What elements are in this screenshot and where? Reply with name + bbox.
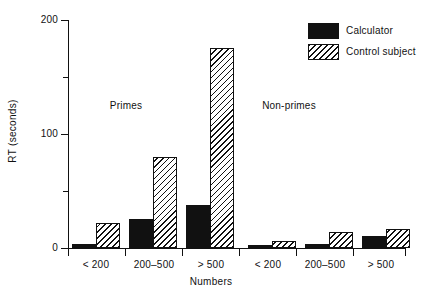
bar-calculator-nonprimes-gt500	[362, 236, 386, 248]
bar-control-primes-gt500	[210, 48, 234, 248]
legend-item-calculator: Calculator	[308, 20, 416, 41]
x-tick-6	[405, 249, 406, 256]
y-axis-title: RT (seconds)	[8, 81, 18, 181]
legend: Calculator Control subject	[308, 20, 416, 62]
x-label-nonprimes-gt500: > 500	[368, 259, 394, 270]
x-tick-5	[353, 249, 354, 256]
y-tick-label-200: 200	[41, 15, 58, 25]
bar-calculator-primes-lt200	[72, 244, 96, 248]
x-tick-1	[125, 249, 126, 256]
x-label-primes-gt500: > 500	[198, 259, 224, 270]
y-tick-label-100: 100	[41, 129, 58, 139]
bar-calculator-nonprimes-200-500	[305, 244, 329, 248]
bar-control-nonprimes-gt500	[386, 229, 410, 248]
legend-item-control-subject: Control subject	[308, 41, 416, 62]
bar-chart-figure: RT (seconds) 200 100 0 < 200 200–5	[0, 0, 422, 296]
x-tick-4	[296, 249, 297, 256]
bar-control-primes-200-500	[153, 157, 177, 248]
x-label-primes-lt200: < 200	[83, 259, 109, 270]
x-label-primes-200-500: 200–500	[134, 259, 174, 270]
legend-label-calculator: Calculator	[346, 26, 393, 36]
hatched-swatch-icon	[308, 44, 339, 60]
bar-control-primes-lt200	[96, 223, 120, 248]
x-label-nonprimes-200-500: 200–500	[305, 259, 345, 270]
bar-calculator-primes-gt500	[186, 205, 210, 248]
x-tick-0	[68, 249, 69, 256]
x-axis-title: Numbers	[0, 277, 422, 287]
x-tick-3	[239, 249, 240, 256]
bar-control-nonprimes-200-500	[329, 232, 353, 248]
x-label-nonprimes-lt200: < 200	[255, 259, 281, 270]
bar-control-nonprimes-lt200	[272, 241, 296, 248]
solid-black-swatch-icon	[308, 23, 339, 39]
bar-calculator-nonprimes-lt200	[248, 245, 272, 248]
group-annotation-non-primes: Non-primes	[262, 101, 316, 111]
bar-calculator-primes-200-500	[129, 219, 153, 248]
y-tick-label-0: 0	[52, 243, 58, 253]
group-annotation-primes: Primes	[110, 101, 142, 111]
x-tick-2	[182, 249, 183, 256]
legend-label-control-subject: Control subject	[346, 47, 416, 57]
x-axis-line	[68, 248, 406, 249]
